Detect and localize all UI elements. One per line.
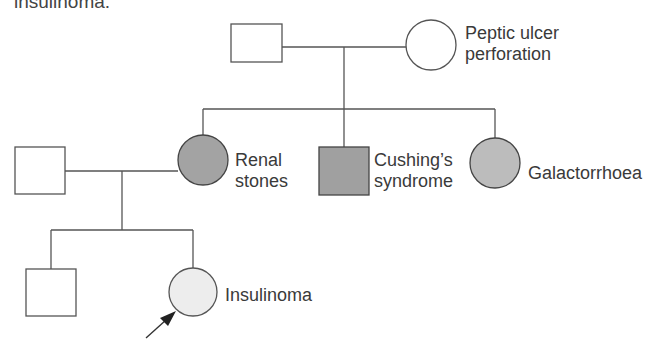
gen2-daughter2-circle (470, 138, 520, 188)
label-line: syndrome (374, 171, 453, 192)
proband-arrow-icon (146, 311, 176, 338)
label-line: perforation (465, 44, 559, 65)
label-insulinoma: Insulinoma (225, 285, 312, 306)
gen2-spouse-square (15, 147, 65, 194)
label-line: Renal (235, 150, 288, 171)
label-cushings-syndrome: Cushing’s syndrome (374, 150, 453, 192)
gen3-son-square (26, 269, 76, 316)
label-line: stones (235, 171, 288, 192)
gen1-mother-circle (406, 20, 456, 70)
label-line: Cushing’s (374, 150, 453, 171)
label-renal-stones: Renal stones (235, 150, 288, 192)
gen3-proband-circle (169, 268, 217, 316)
label-line: Peptic ulcer (465, 23, 559, 44)
gen1-father-square (231, 24, 282, 62)
gen2-daughter1-circle (178, 135, 228, 185)
label-galactorrhoea: Galactorrhoea (528, 163, 642, 184)
gen2-son-square (319, 147, 369, 195)
label-peptic-ulcer: Peptic ulcer perforation (465, 23, 559, 65)
